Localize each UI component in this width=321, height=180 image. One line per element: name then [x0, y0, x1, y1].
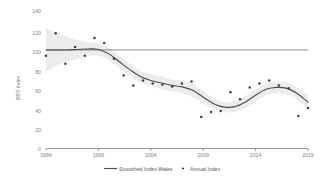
annual-index-point — [200, 116, 203, 119]
y-tick-label: 60 — [35, 88, 41, 94]
annual-index-point — [181, 82, 184, 85]
annual-index-point — [161, 83, 164, 86]
annual-index-point — [307, 107, 310, 110]
x-tick-label: 2004 — [145, 152, 157, 158]
annual-index-point — [229, 91, 232, 94]
annual-index-point — [103, 42, 106, 45]
x-tick-label: 2009 — [197, 152, 209, 158]
annual-index-point — [64, 62, 67, 64]
legend-label-annual: Annual Index — [190, 166, 221, 172]
y-tick-label: 20 — [35, 127, 41, 133]
annual-index-point — [297, 115, 300, 118]
annual-index-point — [54, 32, 57, 35]
legend-label-smoothed: Smoothed Index Wales — [119, 166, 173, 172]
annual-index-point — [142, 79, 145, 82]
x-tick-label: 2019 — [302, 152, 314, 158]
x-tick-label: 1994 — [40, 152, 52, 158]
annual-index-point — [113, 58, 116, 61]
annual-index-point — [122, 74, 125, 77]
chart-legend: Smoothed Index Wales Annual Index — [104, 166, 221, 172]
y-tick-label: 80 — [35, 69, 41, 75]
y-axis-title: BBS Index — [15, 75, 21, 100]
annual-index-point — [278, 84, 281, 87]
y-tick-label: 140 — [32, 8, 41, 14]
chart-container: 140 120 100 80 60 40 20 0 BBS Index 1994… — [0, 0, 321, 180]
annual-index-point — [249, 86, 252, 89]
chart-canvas: 140 120 100 80 60 40 20 0 BBS Index 1994… — [0, 0, 321, 180]
annual-index-point — [171, 85, 174, 88]
annual-index-point — [190, 80, 193, 83]
y-tick-label: 120 — [32, 30, 41, 36]
annual-index-point — [239, 98, 242, 101]
annual-index-point — [151, 82, 154, 85]
annual-index-point — [93, 37, 96, 40]
annual-index-point — [258, 82, 261, 85]
smoothed-trend-line — [46, 49, 308, 108]
x-axis-tickmarks — [46, 149, 308, 152]
annual-index-point — [219, 110, 222, 113]
y-axis-tick-labels: 140 120 100 80 60 40 20 0 — [32, 8, 41, 152]
annual-index-point — [287, 87, 290, 90]
y-tick-label: 100 — [32, 49, 41, 55]
annual-index-point — [84, 55, 87, 58]
confidence-band — [46, 28, 308, 112]
annual-index-point — [210, 111, 213, 114]
annual-index-point — [45, 55, 48, 58]
x-tick-label: 2014 — [250, 152, 262, 158]
x-axis-tick-labels: 1994 1999 2004 2009 2014 2019 — [40, 152, 314, 158]
legend-swatch-dot-icon — [182, 167, 184, 169]
annual-index-point — [268, 79, 271, 82]
annual-index-point — [132, 84, 135, 87]
y-tick-label: 40 — [35, 108, 41, 114]
x-tick-label: 1999 — [93, 152, 105, 158]
annual-index-point — [74, 46, 77, 49]
